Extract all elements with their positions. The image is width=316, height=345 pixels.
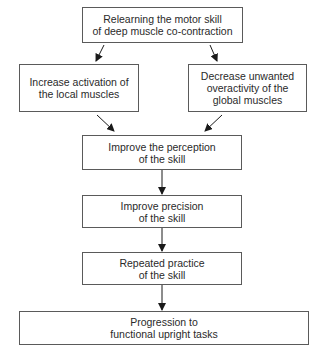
node-text-line: the local muscles [39, 88, 120, 100]
arrow-n1-n2 [96, 45, 104, 61]
node-repeated-practice: Repeated practice of the skill [82, 252, 242, 285]
node-decrease-overactivity: Decrease unwanted overactivity of the gl… [188, 64, 307, 112]
node-text-line: functional upright tasks [110, 328, 217, 340]
node-text-line: global muscles [213, 94, 282, 106]
node-text-line: of the skill [139, 269, 186, 281]
connector-arrows [0, 0, 316, 345]
node-increase-activation: Increase activation of the local muscles [19, 64, 139, 112]
node-relearning-motor-skill: Relearning the motor skill of deep muscl… [82, 7, 243, 43]
node-text-line: Relearning the motor skill [103, 13, 221, 25]
node-text-line: Decrease unwanted [201, 70, 294, 82]
arrow-n1-n3 [210, 45, 217, 61]
arrow-n2-n4 [97, 115, 114, 131]
node-text-line: Progression to [130, 316, 198, 328]
node-improve-perception: Improve the perception of the skill [82, 135, 242, 170]
node-text-line: of the skill [139, 153, 186, 165]
node-text-line: of the skill [139, 212, 186, 224]
node-text-line: Increase activation of [29, 76, 128, 88]
node-progression-upright-tasks: Progression to functional upright tasks [19, 311, 309, 345]
node-text-line: overactivity of the [207, 82, 289, 94]
arrow-n3-n4 [205, 115, 222, 131]
node-text-line: Improve the perception [108, 141, 215, 153]
node-text-line: of deep muscle co-contraction [92, 25, 232, 37]
node-text-line: Repeated practice [119, 257, 204, 269]
node-improve-precision: Improve precision of the skill [82, 195, 242, 228]
node-text-line: Improve precision [121, 200, 204, 212]
